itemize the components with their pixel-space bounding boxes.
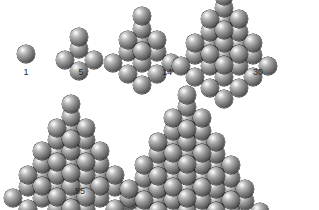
sphere	[178, 189, 196, 207]
sphere	[62, 164, 80, 182]
sphere	[148, 31, 166, 49]
sphere	[133, 76, 151, 94]
sphere	[193, 144, 211, 162]
sphere	[222, 191, 240, 209]
cluster-label-14: 14	[152, 67, 182, 77]
sphere	[106, 200, 124, 210]
sphere	[19, 200, 37, 210]
sphere	[133, 42, 151, 60]
sphere	[70, 28, 88, 46]
sphere	[133, 7, 151, 25]
cluster-label-5: 5	[66, 67, 96, 77]
sphere	[77, 119, 95, 137]
sphere	[62, 130, 80, 148]
sphere	[106, 166, 124, 184]
sphere	[178, 120, 196, 138]
sphere	[215, 56, 233, 74]
sphere	[215, 90, 233, 108]
cluster-label-30: 30	[243, 67, 273, 77]
sphere	[215, 21, 233, 39]
cluster-label-1: 1	[11, 67, 41, 77]
sphere	[17, 45, 35, 63]
sphere	[62, 95, 80, 113]
sphere	[230, 45, 248, 63]
sphere	[178, 155, 196, 173]
cluster-label-55: 55	[65, 186, 95, 196]
sphere	[178, 86, 196, 104]
cluster-size-figure: 15143055	[0, 0, 319, 210]
